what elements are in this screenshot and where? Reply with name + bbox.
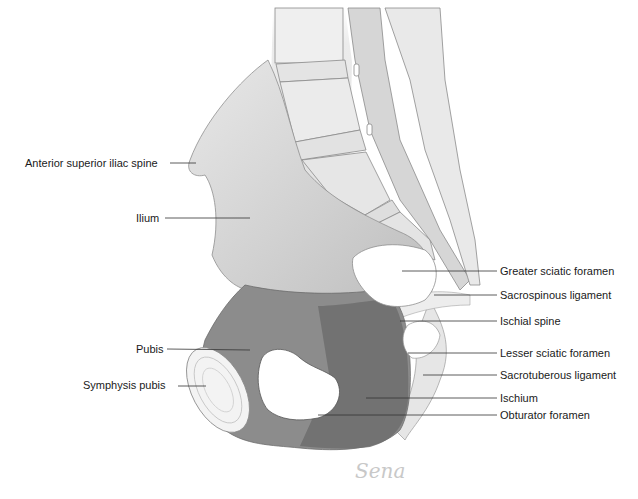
label-ilium: Ilium	[136, 212, 159, 225]
label-lesser-sciatic-foramen: Lesser sciatic foramen	[500, 347, 610, 360]
label-ischial-spine: Ischial spine	[500, 315, 561, 328]
label-pubis: Pubis	[136, 343, 164, 356]
label-ischium: Ischium	[500, 392, 538, 405]
artist-signature: Sena	[355, 459, 405, 483]
label-sacrospinous-ligament: Sacrospinous ligament	[500, 289, 611, 302]
label-anterior-superior-iliac-spine: Anterior superior iliac spine	[25, 157, 158, 170]
label-obturator-foramen: Obturator foramen	[500, 409, 590, 422]
pelvis-illustration: Sena	[0, 0, 638, 499]
label-symphysis-pubis: Symphysis pubis	[83, 379, 166, 392]
label-sacrotuberous-ligament: Sacrotuberous ligament	[500, 369, 616, 382]
label-greater-sciatic-foramen: Greater sciatic foramen	[500, 265, 614, 278]
